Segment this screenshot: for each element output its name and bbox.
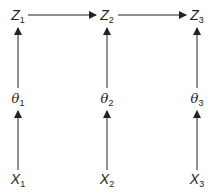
node-label: Z [11, 7, 20, 23]
node-x3: X3 [190, 172, 204, 191]
node-label: θ [101, 91, 109, 106]
node-x1: X1 [11, 172, 25, 191]
node-subscript: 3 [199, 179, 204, 189]
node-z1: Z1 [11, 8, 25, 27]
node-label: θ [12, 91, 20, 106]
node-subscript: 3 [198, 98, 203, 108]
node-subscript: 2 [109, 179, 114, 189]
node-label: X [11, 171, 20, 187]
node-z2: Z2 [100, 8, 114, 27]
node-subscript: 3 [199, 15, 204, 25]
node-subscript: 1 [19, 98, 24, 108]
node-x2: X2 [100, 172, 114, 191]
node-theta1: θ1 [12, 91, 25, 110]
node-theta2: θ2 [101, 91, 114, 110]
node-label: θ [191, 91, 199, 106]
node-theta3: θ3 [191, 91, 204, 110]
node-subscript: 2 [108, 98, 113, 108]
node-subscript: 2 [109, 15, 114, 25]
node-label: X [100, 171, 109, 187]
node-z3: Z3 [190, 8, 204, 27]
node-subscript: 1 [20, 15, 25, 25]
node-label: X [190, 171, 199, 187]
node-subscript: 1 [20, 179, 25, 189]
node-label: Z [190, 7, 199, 23]
node-label: Z [100, 7, 109, 23]
